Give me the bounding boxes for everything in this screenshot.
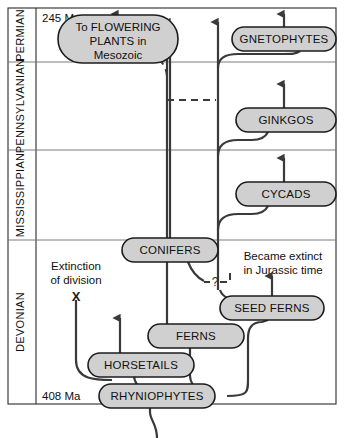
taxon-label: FERNS — [176, 330, 216, 342]
taxon-label: RHYNIOPHYTES — [110, 390, 203, 402]
taxon-label: GNETOPHYTES — [240, 33, 329, 45]
annotation-uncertain-link: ? — [212, 275, 219, 289]
annotation-jurassic: Became extinct in Jurassic time — [243, 250, 323, 276]
extinction-note-line-1: Extinction — [51, 260, 101, 272]
taxon-label-line-3: Mesozoic — [94, 49, 143, 61]
lineage-conifers-stem — [188, 262, 204, 281]
lineage-uncertain-right — [220, 272, 230, 282]
period-dividers — [8, 62, 336, 240]
era-labels: PERMIAN PENNSYLVANIAN MISSISSIPPIAN DEVO… — [14, 9, 26, 352]
taxon-label: CONIFERS — [139, 244, 200, 256]
era-label-devonian: DEVONIAN — [14, 292, 26, 352]
taxon-horsetails[interactable]: HORSETAILS — [88, 353, 194, 377]
taxon-gnetophytes[interactable]: GNETOPHYTES — [232, 27, 336, 51]
lineage-trunk-to-gnetophytes — [218, 51, 300, 68]
taxon-cycads[interactable]: CYCADS — [236, 182, 336, 206]
taxon-label-line-2: PLANTS in — [90, 35, 147, 47]
extinction-note-line-2: of division — [50, 274, 101, 286]
taxon-ferns[interactable]: FERNS — [148, 324, 244, 348]
taxon-label: SEED FERNS — [234, 302, 310, 314]
taxon-ginkgos[interactable]: GINKGOS — [236, 108, 336, 132]
extinction-x-icon: X — [72, 289, 81, 304]
age-label-bottom: 408 Ma — [42, 390, 81, 402]
taxon-conifers[interactable]: CONIFERS — [122, 238, 218, 262]
taxon-label: GINKGOS — [258, 114, 313, 126]
question-mark-icon: ? — [212, 275, 219, 289]
jurassic-note-line-2: in Jurassic time — [243, 264, 322, 276]
diagram-canvas: PERMIAN PENNSYLVANIAN MISSISSIPPIAN DEVO… — [0, 0, 344, 438]
taxon-seed-ferns[interactable]: SEED FERNS — [220, 296, 324, 320]
annotation-extinction: Extinction of division X — [50, 260, 101, 304]
taxon-flowering-plants[interactable]: To FLOWERING PLANTS in Mesozoic — [58, 15, 178, 63]
era-label-mississippian: MISSISSIPPIAN — [14, 153, 26, 238]
lineage-root-trunk — [150, 404, 157, 438]
taxon-label: HORSETAILS — [104, 359, 178, 371]
jurassic-note-line-1: Became extinct — [244, 250, 323, 262]
taxon-label-line-1: To FLOWERING — [76, 21, 161, 33]
taxon-rhyniophytes[interactable]: RHYNIOPHYTES — [99, 384, 215, 408]
era-label-pennsylvanian: PENNSYLVANIAN — [14, 59, 26, 154]
taxon-label: CYCADS — [261, 188, 310, 200]
lineage-trunk-to-ginkgos — [218, 132, 268, 156]
plant-evolution-diagram: PERMIAN PENNSYLVANIAN MISSISSIPPIAN DEVO… — [0, 0, 344, 438]
lineage-trunk-to-cycads — [218, 206, 268, 230]
era-label-permian: PERMIAN — [14, 9, 26, 61]
